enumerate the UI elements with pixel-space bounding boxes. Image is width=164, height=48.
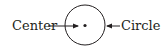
circle-label: Circle <box>121 18 161 33</box>
circle-diagram: Center Circle <box>0 0 164 48</box>
center-point <box>83 24 86 27</box>
